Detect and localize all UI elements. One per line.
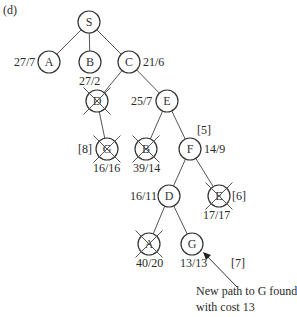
- node-E: E: [156, 90, 178, 112]
- svg-text:S: S: [86, 15, 93, 29]
- node-D-pruned: D: [84, 88, 111, 115]
- edge-C1-E1: [137, 70, 160, 93]
- node-S: S: [78, 11, 100, 33]
- label-F-step: [5]: [197, 124, 211, 137]
- node-E-pruned: E: [206, 183, 233, 210]
- edge-D2-G2: [174, 206, 187, 234]
- node-F: F: [179, 138, 201, 160]
- node-A-pruned: A: [136, 231, 163, 258]
- label-F-cost: 14/9: [204, 143, 225, 156]
- label-E-cost: 25/7: [131, 95, 152, 108]
- node-G-pruned: G: [94, 136, 121, 163]
- node-C: C: [118, 51, 140, 73]
- label-G-cost: 16/16: [93, 162, 120, 175]
- label-D-cost: 16/11: [130, 190, 157, 203]
- edge-D2-A2: [153, 206, 165, 234]
- svg-text:D: D: [165, 189, 174, 203]
- edge-E1-B2: [150, 111, 162, 139]
- label-A-cost: 27/7: [14, 56, 35, 69]
- edge-D1-G1: [99, 112, 105, 138]
- svg-text:A: A: [45, 55, 54, 69]
- label-B-cost: 27/2: [79, 75, 100, 88]
- edge-F1-E2: [196, 158, 213, 186]
- annotation-line-1: New path to G found,: [196, 285, 297, 298]
- edge-C1-D1: [104, 71, 122, 93]
- node-B-pruned: B: [133, 136, 160, 163]
- svg-text:C: C: [125, 55, 133, 69]
- edge-E1-F1: [172, 111, 185, 139]
- svg-text:F: F: [187, 142, 194, 156]
- label-G-step: [8]: [78, 143, 92, 156]
- node-D: D: [158, 185, 180, 207]
- svg-text:G: G: [188, 237, 197, 251]
- label-A2-cost: 40/20: [136, 257, 163, 270]
- label-G2-cost: 13/13: [180, 257, 207, 270]
- edge-S-C1: [97, 30, 121, 54]
- node-G: G: [181, 233, 203, 255]
- svg-text:B: B: [86, 55, 94, 69]
- label-G2-step: [7]: [231, 257, 245, 270]
- label-B2-cost: 39/14: [133, 162, 160, 175]
- edge-F1-D2: [173, 159, 185, 186]
- annotation-line-2: with cost 13: [196, 301, 255, 314]
- edge-S-A1: [57, 30, 81, 54]
- label-E2-cost: 17/17: [203, 209, 230, 222]
- panel-label: (d): [3, 4, 17, 17]
- node-A: A: [38, 51, 60, 73]
- label-C-cost: 21/6: [143, 56, 164, 69]
- node-B: B: [79, 51, 101, 73]
- label-E2-step: [6]: [232, 190, 246, 203]
- svg-text:E: E: [163, 94, 170, 108]
